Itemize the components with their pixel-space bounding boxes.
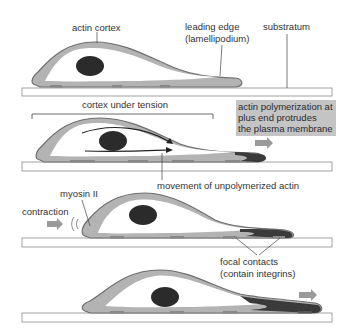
- label-actin-cortex: actin cortex: [72, 22, 121, 33]
- focal-contact: [110, 236, 124, 239]
- label-movement: movement of unpolymerized actin: [157, 180, 299, 191]
- focal-contact: [112, 85, 122, 88]
- motion-lines: [72, 217, 78, 231]
- focal-contact: [172, 160, 194, 163]
- panel-3: myosin II contraction focal contacts (co…: [22, 188, 332, 279]
- label-focal-contacts: focal contacts: [220, 256, 278, 267]
- focal-contact: [170, 236, 184, 239]
- protrusion-arrow: [299, 289, 317, 301]
- substratum-bar: [22, 313, 332, 322]
- focal-contact: [160, 85, 170, 88]
- label-leading-edge: leading edge: [185, 21, 239, 32]
- panel-2: cortex under tension actin polymerizatio…: [22, 99, 336, 191]
- label-polymerization-1: actin polymerization at: [238, 101, 333, 112]
- substratum-bar: [22, 238, 332, 247]
- substratum-bar: [22, 88, 332, 96]
- focal-contact: [128, 160, 148, 163]
- focal-contact: [110, 311, 124, 314]
- leader-line: [220, 45, 222, 76]
- focal-contact: [225, 160, 240, 163]
- nucleus: [99, 131, 127, 151]
- tension-bracket: [32, 114, 213, 119]
- nucleus: [129, 205, 157, 225]
- focal-contact: [298, 311, 312, 314]
- focal-contact: [273, 236, 285, 239]
- label-cortex-under-tension: cortex under tension: [82, 99, 168, 110]
- focal-contact: [170, 311, 184, 314]
- label-myosin: myosin II: [60, 188, 98, 199]
- label-substratum: substratum: [263, 21, 310, 32]
- label-lamellipodium: (lamellipodium): [185, 33, 249, 44]
- focal-contact: [223, 236, 237, 239]
- label-integrins: (contain integrins): [220, 268, 296, 279]
- contraction-arrow: [47, 218, 63, 230]
- panel-1: actin cortex leading edge (lamellipodium…: [22, 21, 332, 96]
- nucleus: [151, 287, 179, 307]
- focal-contact: [223, 311, 237, 314]
- substratum-bar: [22, 162, 332, 171]
- focal-contact: [50, 85, 62, 88]
- nucleus: [76, 56, 104, 76]
- focal-contact: [70, 160, 95, 163]
- protrusion-arrow: [255, 137, 273, 149]
- label-contraction: contraction: [22, 206, 68, 217]
- cell-migration-diagram: actin cortex leading edge (lamellipodium…: [0, 0, 353, 336]
- label-polymerization-3: the plasma membrane: [238, 123, 333, 134]
- label-polymerization-2: plus end protrudes: [238, 112, 317, 123]
